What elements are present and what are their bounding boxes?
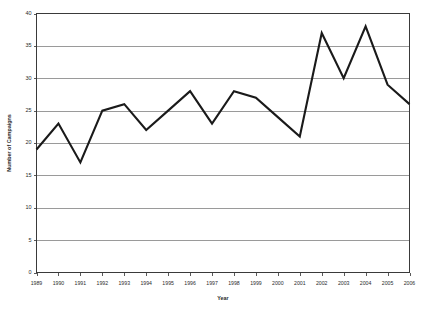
y-axis-title: Number of Campaigns — [6, 114, 12, 172]
y-tick-label: 20 — [25, 139, 31, 145]
y-tick-label: 40 — [25, 10, 31, 16]
x-tick-label: 2005 — [382, 280, 394, 286]
x-tick-label: 1991 — [75, 280, 87, 286]
x-tick-label: 2002 — [316, 280, 328, 286]
y-tick-group: 0510152025303540 — [25, 10, 36, 275]
x-tick-label: 1996 — [184, 280, 196, 286]
y-tick-label: 25 — [25, 107, 31, 113]
y-tick-label: 0 — [28, 269, 31, 275]
y-tick-label: 5 — [28, 237, 31, 243]
x-axis-title: Year — [217, 295, 229, 301]
x-tick-label: 2003 — [338, 280, 350, 286]
x-tick-label: 2000 — [272, 280, 284, 286]
line-chart: 0510152025303540 19891990199119921993199… — [0, 0, 434, 314]
x-tick-label: 2004 — [360, 280, 372, 286]
y-tick-label: 35 — [25, 42, 31, 48]
x-tick-label: 1990 — [53, 280, 65, 286]
x-tick-label: 1997 — [206, 280, 218, 286]
gridline-group — [37, 47, 410, 241]
x-tick-label: 2006 — [404, 280, 416, 286]
y-tick-label: 10 — [25, 204, 31, 210]
x-tick-label: 1989 — [31, 280, 43, 286]
x-tick-label: 1993 — [118, 280, 130, 286]
x-tick-group: 1989199019911992199319941995199619971998… — [31, 273, 416, 286]
y-tick-label: 15 — [25, 172, 31, 178]
x-tick-label: 2001 — [294, 280, 306, 286]
x-tick-label: 1998 — [228, 280, 240, 286]
chart-canvas: 0510152025303540 19891990199119921993199… — [0, 0, 434, 314]
x-tick-label: 1999 — [250, 280, 262, 286]
x-tick-label: 1995 — [162, 280, 174, 286]
x-tick-label: 1994 — [140, 280, 152, 286]
y-tick-label: 30 — [25, 75, 31, 81]
x-tick-label: 1992 — [97, 280, 109, 286]
